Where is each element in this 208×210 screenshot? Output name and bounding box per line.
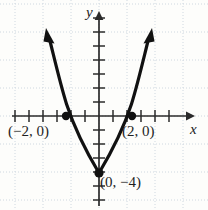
x-axis-label: x [190,122,197,137]
x-axis-arrow [186,112,195,121]
graph-figure: y x (−2, 0) (2, 0) (0, −4) [0,0,208,210]
point-label-vertex: (0, −4) [100,175,141,190]
point-marker-root-left [62,112,70,120]
y-axis-label: y [86,5,93,20]
curve-arrow-right [144,28,155,44]
point-label-root-right: (2, 0) [122,124,155,139]
curve-arrow-left [44,28,55,44]
point-label-root-left: (−2, 0) [8,124,49,139]
x-axis [12,112,195,121]
point-marker-root-right [128,112,136,120]
